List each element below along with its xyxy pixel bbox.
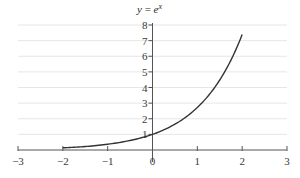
y-tick-label: 4 [142, 82, 148, 94]
x-tick-label: 3 [284, 155, 290, 167]
x-tick-label: 1 [195, 155, 201, 167]
y-tick-label: 8 [142, 19, 148, 31]
exponential-chart: −3−2−10123 12345678 y = ex [0, 0, 300, 178]
x-tick-label: 0 [150, 155, 156, 167]
x-tick-label: −2 [57, 155, 69, 167]
x-tick-label: 2 [239, 155, 245, 167]
y-tick-label: 5 [142, 66, 148, 78]
y-axis-ticks: 12345678 [142, 19, 153, 140]
x-axis-ticks: −3−2−10123 [12, 146, 290, 167]
y-tick-label: 7 [142, 35, 148, 47]
axes [18, 23, 287, 162]
y-tick-label: 6 [142, 50, 148, 62]
y-tick-label: 2 [142, 113, 148, 125]
x-tick-label: −3 [12, 155, 24, 167]
y-tick-label: 1 [142, 128, 148, 140]
chart-title: y = ex [136, 2, 163, 15]
y-tick-label: 3 [142, 97, 148, 109]
x-tick-label: −1 [102, 155, 114, 167]
